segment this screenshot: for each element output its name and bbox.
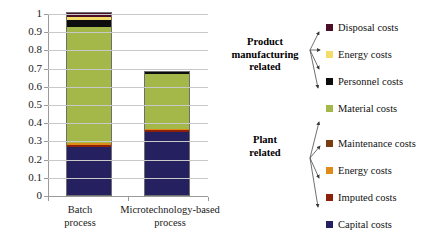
y-tick-mark-0.6 — [44, 87, 48, 88]
legend-item-energy-costs-1[interactable]: Energy costs — [326, 48, 392, 61]
y-tick-mark-0.7 — [44, 69, 48, 70]
gridline-0.9 — [48, 32, 208, 33]
gridline-1 — [48, 14, 208, 15]
x-tick-right — [208, 197, 209, 201]
y-axis-tick-label-0.2: 0.2 — [2, 154, 42, 165]
legend-swatch-icon — [326, 140, 333, 147]
legend-swatch-icon — [326, 78, 333, 85]
gridline-0.4 — [48, 123, 208, 124]
group-label-product-manufacturing-related: Product manufacturing related — [224, 36, 306, 74]
legend-item-personnel-costs-2[interactable]: Personnel costs — [326, 75, 403, 88]
gridline-0.7 — [48, 69, 208, 70]
y-tick-mark-1 — [44, 14, 48, 15]
gridline-0.8 — [48, 50, 208, 51]
legend-swatch-icon — [326, 24, 333, 31]
legend-item-energy-costs-5[interactable]: Energy costs — [326, 164, 392, 177]
legend-and-grouping: Product manufacturing related Plant rela… — [222, 0, 436, 244]
y-tick-mark-0.3 — [44, 141, 48, 142]
y-axis-tick-label-0: 0 — [2, 190, 42, 201]
x-tick-left — [48, 197, 49, 201]
group-plant-line1: Plant — [224, 134, 306, 147]
legend-swatch-icon — [326, 194, 333, 201]
y-axis-tick-label-0.4: 0.4 — [2, 117, 42, 128]
legend-swatch-icon — [326, 167, 333, 174]
y-axis-labels: 10.90.80.70.60.50.40.30.20.10 — [0, 0, 42, 244]
legend-swatch-icon — [326, 221, 333, 228]
y-tick-mark-0 — [44, 196, 48, 197]
legend-label: Maintenance costs — [338, 138, 416, 150]
group-plant-line2: related — [224, 147, 306, 160]
gridline-0.3 — [48, 141, 208, 142]
group-product-line2: manufacturing — [224, 49, 306, 62]
y-axis-tick-label-1: 1 — [2, 8, 42, 19]
gridline-0.5 — [48, 105, 208, 106]
legend-item-maintenance-costs-4[interactable]: Maintenance costs — [326, 137, 416, 150]
legend-label: Disposal costs — [338, 22, 398, 34]
x-axis-label-micro-line2: process — [104, 216, 236, 229]
legend-swatch-icon — [326, 105, 333, 112]
legend-item-capital-costs-7[interactable]: Capital costs — [326, 218, 392, 231]
y-tick-mark-0.8 — [44, 50, 48, 51]
y-tick-mark-0.2 — [44, 160, 48, 161]
y-axis-tick-label-0.6: 0.6 — [2, 81, 42, 92]
group-product-line1: Product — [224, 36, 306, 49]
legend-label: Material costs — [338, 103, 397, 115]
figure-root: 10.90.80.70.60.50.40.30.20.10 Batch proc… — [0, 0, 436, 244]
x-axis-label-microtechnology-process: Microtechnology-based process — [104, 203, 236, 229]
legend-label: Energy costs — [338, 165, 392, 177]
legend-item-disposal-costs-0[interactable]: Disposal costs — [326, 21, 398, 34]
y-axis-tick-label-0.5: 0.5 — [2, 99, 42, 110]
legend-swatch-icon — [326, 51, 333, 58]
legend-label: Imputed costs — [338, 192, 397, 204]
gridline-0.6 — [48, 87, 208, 88]
group-product-line3: related — [224, 61, 306, 74]
bar-segment-material-costs[interactable] — [67, 27, 111, 143]
y-axis-tick-label-0.1: 0.1 — [2, 172, 42, 183]
gridline-0.2 — [48, 160, 208, 161]
legend-label: Energy costs — [338, 49, 392, 61]
bar-segment-capital-costs[interactable] — [67, 147, 111, 195]
y-tick-mark-0.9 — [44, 32, 48, 33]
legend-item-material-costs-3[interactable]: Material costs — [326, 102, 397, 115]
stacked-bar-chart: 10.90.80.70.60.50.40.30.20.10 Batch proc… — [0, 0, 222, 244]
legend-label: Personnel costs — [338, 76, 403, 88]
legend-item-imputed-costs-6[interactable]: Imputed costs — [326, 191, 397, 204]
bar-batch-process[interactable] — [66, 12, 112, 196]
y-axis-tick-label-0.3: 0.3 — [2, 135, 42, 146]
group-label-plant-related: Plant related — [224, 134, 306, 159]
y-tick-mark-0.1 — [44, 178, 48, 179]
x-tick-middle — [128, 197, 129, 201]
plot-area — [48, 14, 208, 196]
gridline-0.1 — [48, 178, 208, 179]
legend-label: Capital costs — [338, 219, 392, 231]
y-tick-mark-0.4 — [44, 123, 48, 124]
x-axis-label-micro-line1: Microtechnology-based — [104, 203, 236, 216]
y-axis-tick-label-0.9: 0.9 — [2, 26, 42, 37]
y-axis-tick-label-0.7: 0.7 — [2, 63, 42, 74]
y-axis-tick-label-0.8: 0.8 — [2, 44, 42, 55]
bar-segment-material-costs[interactable] — [145, 74, 189, 129]
y-tick-mark-0.5 — [44, 105, 48, 106]
